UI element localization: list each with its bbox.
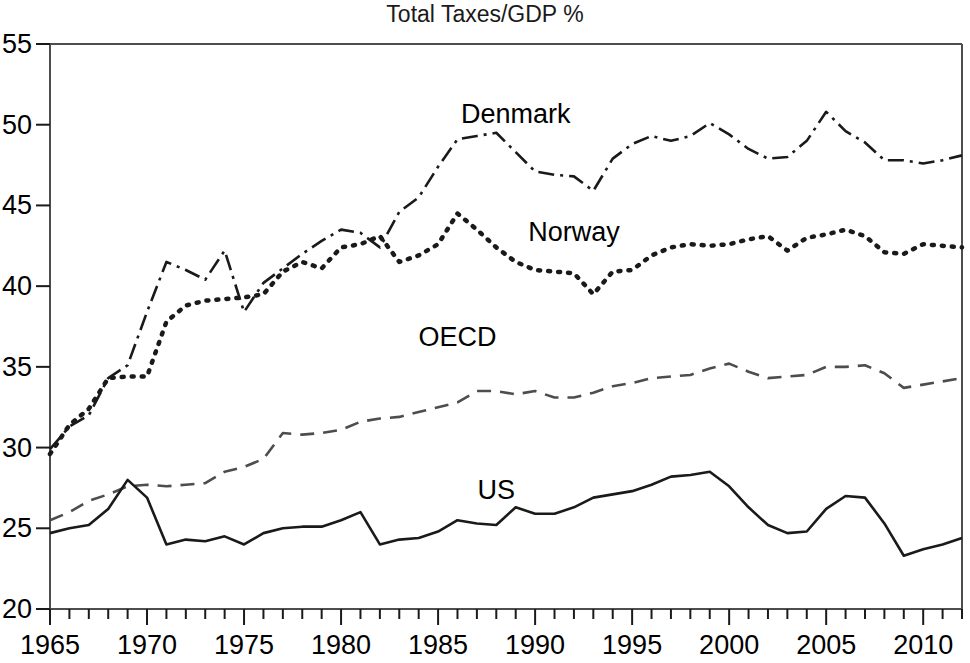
x-axis-tick-label: 1985 — [408, 630, 468, 660]
y-axis-tick-label: 30 — [2, 433, 32, 463]
x-axis-tick-label: 1990 — [505, 630, 565, 660]
x-axis-tick-label: 2005 — [796, 630, 856, 660]
y-axis-tick-label: 20 — [2, 594, 32, 624]
y-axis-tick-label: 25 — [2, 513, 32, 543]
chart-container: Total Taxes/GDP % 2025303540455055 19651… — [0, 0, 970, 663]
x-axis-tick-label: 1970 — [117, 630, 177, 660]
x-axis-tick-label: 2010 — [893, 630, 953, 660]
series-label-norway: Norway — [528, 217, 620, 247]
chart-title: Total Taxes/GDP % — [386, 1, 583, 27]
x-axis-tick-label: 1995 — [602, 630, 662, 660]
y-axis-tick-label: 45 — [2, 190, 32, 220]
x-axis-tick-label: 1975 — [214, 630, 274, 660]
series-label-oecd: OECD — [418, 322, 496, 352]
series-label-denmark: Denmark — [461, 99, 571, 129]
y-axis-tick-label: 35 — [2, 352, 32, 382]
x-axis-tick-label: 1965 — [20, 630, 80, 660]
x-axis-tick-label: 1980 — [311, 630, 371, 660]
y-axis-tick-label: 50 — [2, 110, 32, 140]
y-axis-tick-label: 40 — [2, 271, 32, 301]
series-label-us: US — [478, 475, 516, 505]
y-axis-tick-label: 55 — [2, 29, 32, 59]
x-axis-tick-label: 2000 — [699, 630, 759, 660]
line-chart: Total Taxes/GDP % 2025303540455055 19651… — [0, 0, 970, 663]
